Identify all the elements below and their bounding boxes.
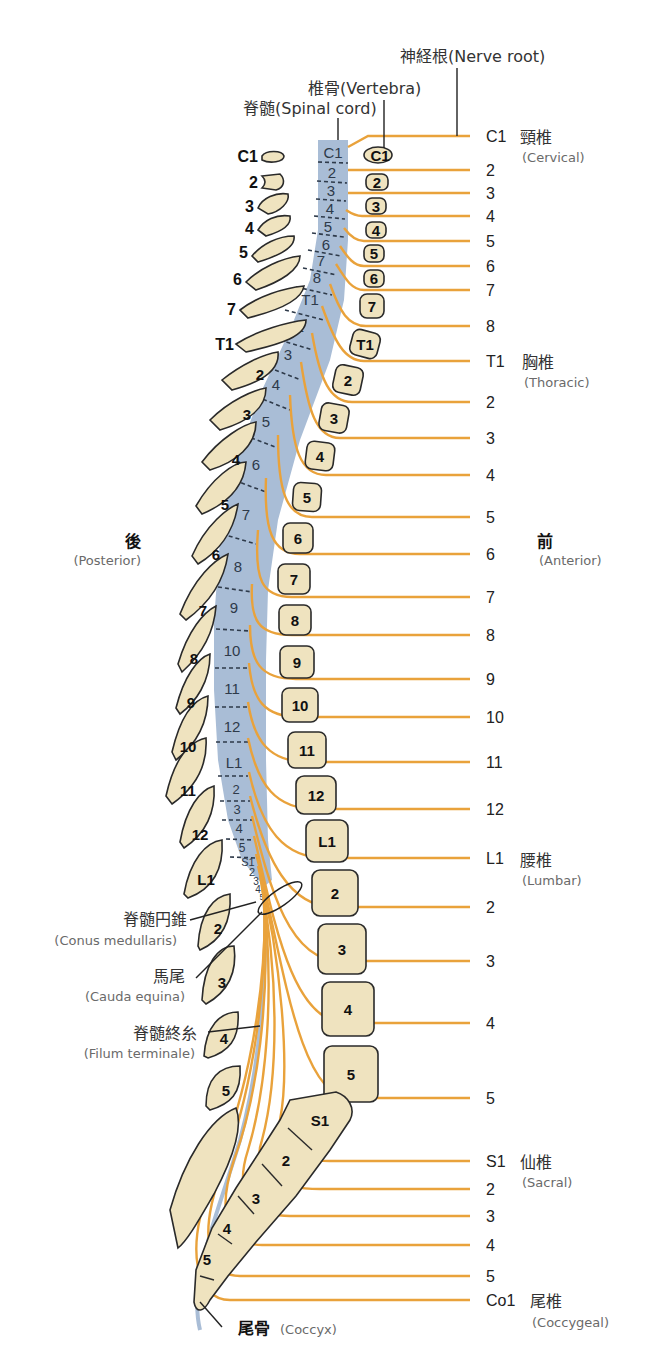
svg-text:11: 11: [180, 782, 196, 799]
svg-text:10: 10: [224, 642, 241, 659]
svg-text:L1: L1: [318, 833, 336, 850]
svg-text:12: 12: [192, 826, 209, 843]
svg-text:C1: C1: [238, 148, 259, 165]
svg-text:2: 2: [344, 372, 352, 389]
svg-text:6: 6: [486, 546, 495, 563]
svg-text:腰椎: 腰椎: [520, 851, 552, 870]
svg-text:Co1: Co1: [486, 1292, 515, 1309]
svg-text:11: 11: [224, 680, 240, 697]
svg-text:(Conus medullaris): (Conus medullaris): [54, 933, 177, 948]
svg-text:3: 3: [486, 185, 495, 202]
svg-text:7: 7: [290, 571, 298, 588]
svg-text:2: 2: [256, 366, 264, 383]
svg-text:7: 7: [368, 298, 376, 315]
svg-text:4: 4: [220, 1030, 229, 1047]
svg-text:4: 4: [235, 821, 242, 836]
svg-text:S1: S1: [486, 1153, 506, 1170]
svg-text:L1: L1: [226, 754, 243, 771]
svg-text:(Thoracic): (Thoracic): [524, 375, 590, 390]
svg-text:C1: C1: [486, 128, 507, 145]
svg-text:7: 7: [486, 282, 495, 299]
svg-text:(Filum terminale): (Filum terminale): [84, 1046, 195, 1061]
svg-text:頸椎: 頸椎: [520, 128, 552, 147]
svg-text:3: 3: [486, 430, 495, 447]
svg-text:5: 5: [239, 841, 246, 855]
svg-text:7: 7: [199, 602, 207, 619]
svg-text:3: 3: [252, 1190, 260, 1207]
svg-text:3: 3: [218, 974, 226, 991]
svg-text:2: 2: [282, 1152, 290, 1169]
svg-text:(Cauda equina): (Cauda equina): [85, 989, 185, 1004]
nerve-root-label: 神経根(Nerve root): [400, 47, 545, 66]
svg-text:胸椎: 胸椎: [522, 353, 554, 372]
svg-text:馬尾: 馬尾: [153, 967, 185, 986]
svg-text:5: 5: [486, 509, 495, 526]
svg-text:(Cervical): (Cervical): [522, 150, 585, 165]
svg-text:2: 2: [486, 394, 495, 411]
svg-text:(Sacral): (Sacral): [522, 1175, 572, 1190]
svg-text:3: 3: [284, 346, 292, 363]
svg-text:12: 12: [486, 801, 504, 818]
vertebra-label: 椎骨(Vertebra): [308, 79, 421, 98]
svg-text:(Anterior): (Anterior): [539, 553, 602, 568]
svg-text:3: 3: [327, 182, 335, 199]
svg-text:4: 4: [223, 1220, 232, 1237]
svg-text:2: 2: [328, 164, 336, 181]
svg-text:4: 4: [316, 448, 325, 465]
svg-text:4: 4: [486, 467, 495, 484]
svg-text:(Coccygeal): (Coccygeal): [532, 1315, 609, 1330]
svg-text:8: 8: [313, 269, 321, 286]
svg-text:2: 2: [486, 162, 495, 179]
nerve-root-labels: C1 2 3 4 5 6 7 8 T1 2 3 4 5 6 7 8 9 10 1…: [486, 128, 515, 1309]
svg-text:5: 5: [486, 233, 495, 250]
svg-text:L1: L1: [486, 850, 504, 867]
svg-text:T1: T1: [486, 353, 505, 370]
svg-text:4: 4: [272, 376, 280, 393]
svg-text:3: 3: [338, 941, 346, 958]
svg-text:4: 4: [486, 208, 495, 225]
svg-text:5: 5: [222, 1082, 230, 1099]
svg-text:尾椎: 尾椎: [530, 1292, 562, 1311]
svg-text:5: 5: [262, 413, 270, 430]
svg-text:5: 5: [203, 1251, 211, 1268]
svg-text:9: 9: [187, 694, 195, 711]
svg-text:3: 3: [233, 802, 240, 817]
svg-text:6: 6: [370, 270, 378, 287]
svg-text:3: 3: [243, 406, 251, 423]
svg-text:5: 5: [486, 1268, 495, 1285]
svg-text:3: 3: [486, 1208, 495, 1225]
svg-text:6: 6: [252, 456, 260, 473]
svg-text:T1: T1: [356, 336, 374, 353]
svg-text:5: 5: [303, 489, 311, 506]
svg-text:S1: S1: [311, 1112, 329, 1129]
region-labels: 頸椎 (Cervical) 胸椎 (Thoracic) 腰椎 (Lumbar) …: [520, 128, 609, 1330]
svg-text:8: 8: [486, 627, 495, 644]
svg-text:2: 2: [249, 174, 258, 191]
svg-text:4: 4: [486, 1015, 495, 1032]
svg-text:5: 5: [486, 1090, 495, 1107]
svg-text:11: 11: [299, 742, 315, 759]
coccyx-label-en: (Coccyx): [280, 1322, 337, 1337]
svg-text:7: 7: [486, 589, 495, 606]
svg-text:8: 8: [190, 650, 198, 667]
svg-text:2: 2: [232, 782, 239, 797]
svg-text:2: 2: [373, 174, 381, 191]
svg-text:脊髄円錐: 脊髄円錐: [123, 910, 187, 929]
svg-text:2: 2: [486, 1181, 495, 1198]
svg-text:3: 3: [372, 198, 380, 215]
svg-text:L1: L1: [197, 871, 215, 888]
spinal-cord-label: 脊髄(Spinal cord): [243, 99, 377, 118]
svg-text:2: 2: [486, 899, 495, 916]
structure-labels: 脊髄円錐 (Conus medullaris) 馬尾 (Cauda equina…: [54, 910, 197, 1061]
svg-text:8: 8: [234, 558, 242, 575]
svg-text:5: 5: [324, 218, 332, 235]
svg-text:3: 3: [245, 198, 254, 215]
svg-text:後: 後: [125, 532, 142, 550]
svg-text:2: 2: [214, 920, 222, 937]
svg-text:2: 2: [331, 885, 339, 902]
svg-text:5: 5: [221, 496, 229, 513]
svg-text:前: 前: [537, 532, 553, 550]
svg-text:11: 11: [486, 754, 503, 771]
svg-text:10: 10: [180, 738, 197, 755]
svg-text:12: 12: [224, 718, 241, 735]
